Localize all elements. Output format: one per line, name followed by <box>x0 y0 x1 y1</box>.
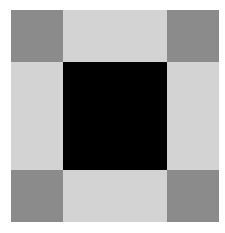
edge-left <box>11 62 63 170</box>
edge-bottom <box>63 170 167 222</box>
center-square <box>63 62 167 170</box>
square-grid <box>11 10 219 222</box>
corner-bottom-left <box>11 170 63 222</box>
corner-top-left <box>11 10 63 62</box>
corner-top-right <box>167 10 219 62</box>
corner-bottom-right <box>167 170 219 222</box>
edge-right <box>167 62 219 170</box>
edge-top <box>63 10 167 62</box>
